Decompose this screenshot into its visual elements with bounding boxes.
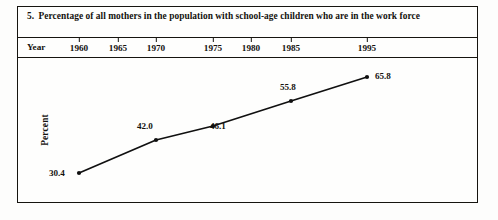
tick-mark-icon [212,38,213,42]
tick-mark-icon [155,38,156,42]
figure-number: 5. [27,11,34,21]
year-tick-label: 1995 [358,43,376,53]
figure-caption-block: 5. Percentage of all mothers in the popu… [18,7,477,38]
figure-caption-text: 5. Percentage of all mothers in the popu… [27,10,468,22]
year-tick-label: 1985 [282,43,300,53]
tick-mark-icon [290,38,291,42]
year-tick-label: 1980 [242,43,260,53]
year-tick-label: 1970 [147,43,165,53]
year-tick-1975: 1975 [204,38,222,53]
tick-mark-icon [78,38,79,42]
year-tick-1995: 1995 [358,38,376,53]
data-point-label: 46.1 [210,121,226,131]
figure-frame: 5. Percentage of all mothers in the popu… [17,6,478,203]
tick-mark-icon [117,38,118,42]
data-point-marker [154,138,158,142]
year-tick-1980: 1980 [242,38,260,53]
data-point-marker [365,75,369,79]
line-series-svg [18,58,477,202]
year-axis: Year 1960196519701975198019851995 [18,38,477,58]
data-point-label: 42.0 [137,121,153,131]
data-point-label: 55.8 [280,82,296,92]
year-tick-1965: 1965 [109,38,127,53]
figure-caption: Percentage of all mothers in the populat… [39,11,420,21]
year-tick-1960: 1960 [70,38,88,53]
year-tick-1985: 1985 [282,38,300,53]
plot-area: Percent 30.442.046.155.865.8 [18,58,477,202]
tick-mark-icon [366,38,367,42]
data-point-label: 65.8 [375,71,391,81]
year-tick-label: 1965 [109,43,127,53]
data-point-marker [289,99,293,103]
year-tick-1970: 1970 [147,38,165,53]
year-tick-label: 1975 [204,43,222,53]
year-tick-label: 1960 [70,43,88,53]
year-axis-label: Year [27,42,45,52]
data-point-label: 30.4 [49,168,65,178]
data-point-marker [77,171,81,175]
scanned-page: 5. Percentage of all mothers in the popu… [0,0,498,220]
tick-mark-icon [250,38,251,42]
